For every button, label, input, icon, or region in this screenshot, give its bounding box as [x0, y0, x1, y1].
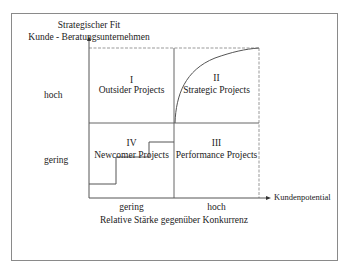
quadrant-ii-label: Strategic Projects	[174, 85, 259, 96]
x-tick-gering: gering	[89, 202, 174, 213]
y-axis-title-line2: Kunde - Beratungsunternehmen	[0, 32, 178, 43]
quadrant-iii-numeral: III	[174, 138, 259, 149]
x-axis-arrow-label: Kundenpotential	[274, 192, 331, 203]
quadrant-iv-numeral: IV	[89, 138, 174, 149]
quadrant-iv-label: Newcomer Projects	[89, 150, 174, 161]
quadrant-iii-label: Performance Projects	[174, 150, 259, 161]
x-tick-hoch: hoch	[174, 202, 259, 213]
quadrant-ii-numeral: II	[174, 73, 259, 84]
quadrant-i-label: Outsider Projects	[89, 85, 174, 96]
y-tick-gering: gering	[44, 155, 68, 166]
y-tick-hoch: hoch	[44, 90, 62, 101]
x-axis-arrow-icon	[266, 196, 271, 200]
x-axis-title: Relative Stärke gegenüber Konkurrenz	[89, 215, 259, 226]
y-axis-title-line1: Strategischer Fit	[0, 20, 178, 31]
